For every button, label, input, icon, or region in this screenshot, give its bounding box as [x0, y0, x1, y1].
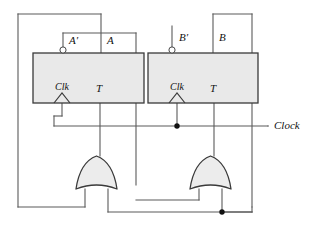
flipflop-a-clk-label: Clk: [55, 81, 69, 92]
label-a-complement: A′: [68, 34, 79, 46]
circuit-schematic-svg: Clk T Clk T A′ A B′ B Clock: [0, 0, 315, 231]
circuit-diagram: Clk T Clk T A′ A B′ B Clock: [0, 0, 315, 231]
junction-bottom-right: [219, 209, 224, 214]
flipflop-a-body[interactable]: [33, 53, 144, 103]
flipflop-a-invert-bubble-icon: [60, 47, 66, 53]
or-gate-left[interactable]: [76, 156, 117, 189]
flipflop-b[interactable]: Clk T: [148, 47, 258, 103]
or-gate-right-body[interactable]: [190, 156, 231, 189]
label-b: B: [219, 31, 226, 43]
label-clock: Clock: [274, 119, 301, 131]
flipflop-a-t-label: T: [96, 82, 103, 94]
label-b-complement: B′: [179, 31, 189, 43]
flipflop-a[interactable]: Clk T: [33, 47, 144, 103]
flipflop-b-invert-bubble-icon: [169, 47, 175, 53]
flipflop-b-t-label: T: [210, 82, 217, 94]
flipflop-b-clk-label: Clk: [170, 81, 184, 92]
flipflop-b-body[interactable]: [148, 53, 258, 103]
or-gate-right[interactable]: [190, 156, 231, 189]
or-gate-left-body[interactable]: [76, 156, 117, 189]
junction-clock-tap: [174, 123, 179, 128]
wire-group: [18, 14, 268, 212]
label-a: A: [106, 34, 114, 46]
